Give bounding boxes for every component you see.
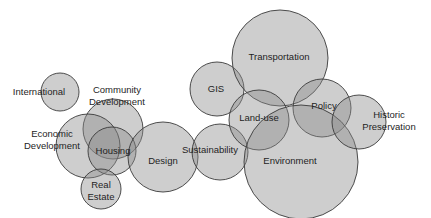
label-housing: Housing bbox=[96, 145, 131, 156]
label-community-development: CommunityDevelopment bbox=[89, 84, 145, 107]
label-line: Community bbox=[93, 84, 141, 95]
label-gis: GIS bbox=[208, 83, 224, 94]
label-line: Environment bbox=[263, 155, 317, 166]
label-real-estate: RealEstate bbox=[88, 179, 115, 202]
label-line: Housing bbox=[96, 145, 131, 156]
bubble-diagram: InternationalCommunityDevelopmentEconomi… bbox=[0, 0, 431, 218]
label-line: GIS bbox=[208, 83, 224, 94]
label-line: International bbox=[13, 86, 65, 97]
label-line: Historic bbox=[373, 109, 405, 120]
label-international: International bbox=[13, 86, 65, 97]
label-line: Transportation bbox=[249, 51, 310, 62]
label-land-use: Land-use bbox=[239, 112, 279, 123]
label-line: Design bbox=[148, 155, 178, 166]
label-sustainability: Sustainability bbox=[182, 144, 238, 155]
label-line: Sustainability bbox=[182, 144, 238, 155]
label-line: Land-use bbox=[239, 112, 279, 123]
label-economic-development: EconomicDevelopment bbox=[24, 128, 80, 151]
label-line: Preservation bbox=[362, 120, 415, 131]
label-line: Development bbox=[24, 139, 80, 150]
label-transportation: Transportation bbox=[249, 51, 310, 62]
diagram-canvas: InternationalCommunityDevelopmentEconomi… bbox=[0, 0, 431, 218]
label-line: Economic bbox=[31, 128, 73, 139]
label-line: Development bbox=[89, 95, 145, 106]
label-line: Policy bbox=[311, 100, 337, 111]
label-environment: Environment bbox=[263, 155, 317, 166]
label-line: Estate bbox=[88, 190, 115, 201]
label-policy: Policy bbox=[311, 100, 337, 111]
label-design: Design bbox=[148, 155, 178, 166]
label-line: Real bbox=[91, 179, 111, 190]
